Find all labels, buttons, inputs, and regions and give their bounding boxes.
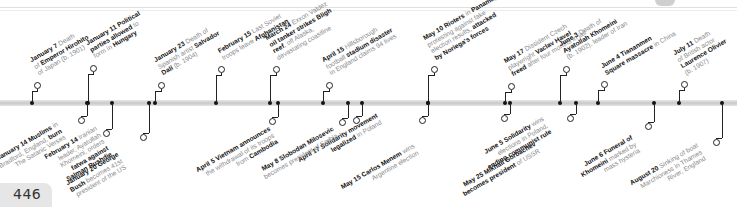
connector-line (270, 75, 271, 103)
connector-line (576, 103, 577, 114)
event-ring-marker (218, 66, 225, 73)
connector-line (323, 91, 324, 103)
event-ring-marker (158, 82, 165, 89)
event-label: January 23 Death ofSpanish artist Salvad… (153, 22, 225, 77)
event-ring-marker (34, 82, 41, 89)
event-ring-marker (681, 81, 688, 88)
connector-line (566, 73, 567, 76)
connector-line (684, 88, 685, 91)
connector-line (348, 103, 349, 118)
event-ring-marker (353, 117, 360, 124)
page-number: 446 (13, 186, 41, 202)
event-ring-marker (273, 66, 280, 73)
page-edge-shadow (655, 0, 675, 6)
top-rule-secondary (0, 10, 737, 11)
connector-line (155, 91, 156, 103)
connector-line (654, 103, 655, 122)
connector-line (112, 103, 113, 129)
connector-line (505, 92, 506, 103)
connector-line (276, 73, 277, 76)
event-label-line: May 15 Carlos Menem wins (339, 142, 415, 191)
event-ring-marker (567, 115, 574, 122)
event-label-line: Argentine election (343, 148, 419, 197)
connector-line (32, 91, 33, 103)
connector-line (510, 103, 511, 114)
event-label-line: Square massacre in China (603, 29, 677, 76)
connector-line (278, 103, 279, 117)
event-ring-marker (713, 139, 720, 146)
connector-line (221, 73, 222, 76)
event-label: July 11 Deathof British actorLaurence Ol… (672, 24, 732, 76)
event-ring-marker (508, 83, 515, 90)
connector-line (560, 75, 561, 103)
event-label: January 7 Deathof Emperor Hirohitoof Jap… (29, 26, 94, 77)
top-rule (0, 7, 737, 8)
connector-line (428, 103, 429, 116)
event-ring-marker (140, 134, 147, 141)
connector-line (149, 103, 150, 133)
event-ring-marker (326, 82, 333, 89)
connector-line (87, 103, 88, 116)
event-ring-marker (601, 81, 608, 88)
event-label: January 11 Politicalparties allowed tofo… (85, 10, 149, 60)
connector-line (434, 73, 435, 76)
event-ring-marker (103, 130, 110, 137)
connector-line (511, 90, 512, 93)
event-ring-marker (431, 66, 438, 73)
event-ring-marker (645, 123, 652, 130)
connector-line (598, 90, 599, 103)
event-ring-marker (78, 117, 85, 124)
connector-line (93, 72, 94, 75)
event-ring-marker (563, 66, 570, 73)
connector-line (88, 74, 89, 103)
event-ring-marker (501, 115, 508, 122)
connector-line (329, 89, 330, 92)
event-ring-marker (90, 65, 97, 72)
event-ring-marker (269, 118, 276, 125)
event-ring-marker (419, 117, 426, 124)
connector-line (679, 90, 680, 103)
connector-line (722, 103, 723, 138)
event-label: May 15 Carlos Menem winsArgentine electi… (339, 142, 419, 197)
connector-line (604, 88, 605, 91)
event-ring-marker (339, 119, 346, 126)
connector-line (428, 75, 429, 103)
connector-line (362, 103, 363, 116)
connector-line (37, 89, 38, 92)
connector-line (216, 75, 217, 103)
connector-line (161, 89, 162, 92)
